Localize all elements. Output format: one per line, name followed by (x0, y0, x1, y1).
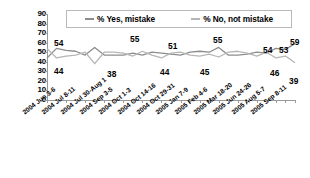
legend-swatch-no (191, 18, 200, 20)
x-axis-tick (181, 100, 182, 103)
y-axis-tick (44, 33, 47, 34)
data-label-yes: 53 (279, 46, 288, 55)
x-axis-tick (209, 100, 210, 103)
x-axis-tick (200, 100, 201, 103)
y-axis-tick (44, 81, 47, 82)
line-chart: 9080706050403020100 54555155545359443844… (0, 0, 310, 178)
y-axis-tick (44, 14, 47, 15)
x-axis-tick (85, 100, 86, 103)
x-axis-tick (66, 100, 67, 103)
data-label-no: 38 (107, 70, 116, 79)
x-axis-tick (142, 100, 143, 103)
data-label-no: 45 (200, 68, 209, 77)
x-axis-tick (190, 100, 191, 103)
x-axis-tick (171, 100, 172, 103)
x-axis-tick (257, 100, 258, 103)
x-axis-tick (133, 100, 134, 103)
legend-label-no: % No, not mistake (203, 14, 273, 24)
x-axis-tick (76, 100, 77, 103)
x-axis-tick (47, 100, 48, 103)
legend-entry-no[interactable]: % No, not mistake (191, 14, 273, 24)
legend-label-yes: % Yes, mistake (97, 14, 155, 24)
chart-legend: % Yes, mistake % No, not mistake (66, 10, 292, 28)
data-label-yes: 59 (290, 38, 299, 47)
x-axis-tick (123, 100, 124, 103)
y-axis-tick (44, 62, 47, 63)
x-axis-tick (247, 100, 248, 103)
x-axis-tick (238, 100, 239, 103)
x-axis-tick (285, 100, 286, 103)
data-label-yes: 55 (130, 35, 139, 44)
y-axis-tick (44, 90, 47, 91)
y-axis-tick (44, 52, 47, 53)
y-axis-tick (44, 43, 47, 44)
data-label-yes: 54 (54, 39, 63, 48)
x-axis-tick (152, 100, 153, 103)
legend-swatch-yes (85, 18, 94, 20)
legend-entry-yes[interactable]: % Yes, mistake (85, 14, 155, 24)
x-axis-tick (295, 100, 296, 103)
x-axis-tick (114, 100, 115, 103)
x-axis-tick (219, 100, 220, 103)
y-axis-tick (44, 24, 47, 25)
data-label-no: 46 (270, 69, 279, 78)
data-label-yes: 51 (168, 42, 177, 51)
x-axis-tick (276, 100, 277, 103)
data-label-no: 44 (160, 68, 169, 77)
x-axis-tick (266, 100, 267, 103)
x-axis-tick (161, 100, 162, 103)
x-axis-tick (104, 100, 105, 103)
data-label-yes: 55 (213, 36, 222, 45)
x-axis-tick (57, 100, 58, 103)
x-axis-tick (228, 100, 229, 103)
x-axis-tick (95, 100, 96, 103)
data-label-no: 39 (289, 77, 298, 86)
data-label-no: 44 (54, 67, 63, 76)
y-axis-tick (44, 71, 47, 72)
data-label-yes: 54 (263, 46, 272, 55)
